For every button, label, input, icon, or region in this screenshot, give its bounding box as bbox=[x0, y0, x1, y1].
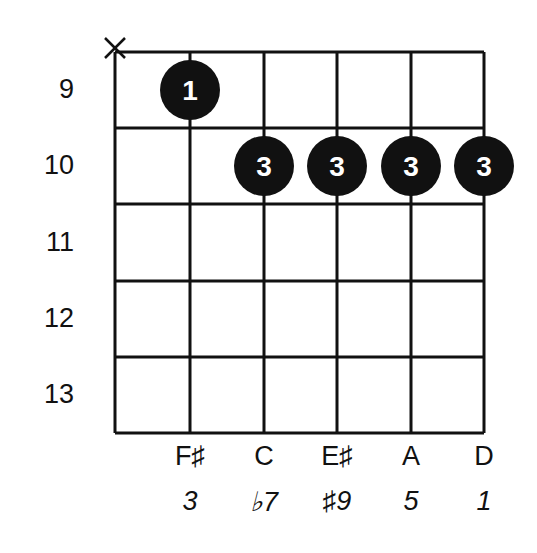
finger-number: 1 bbox=[182, 75, 198, 106]
interval-label: 3 bbox=[160, 486, 220, 517]
fret-number: 12 bbox=[18, 303, 74, 334]
finger-number: 3 bbox=[403, 151, 419, 182]
interval-label: ♯9 bbox=[307, 486, 367, 517]
interval-label: ♭7 bbox=[234, 486, 294, 518]
interval-label: 5 bbox=[381, 486, 441, 517]
fret-number: 11 bbox=[18, 227, 74, 258]
note-label: A bbox=[381, 441, 441, 472]
interval-label: 1 bbox=[454, 486, 514, 517]
note-label: D bbox=[454, 441, 514, 472]
finger-number: 3 bbox=[476, 151, 492, 182]
note-label: E♯ bbox=[307, 441, 367, 472]
finger-number: 3 bbox=[256, 151, 272, 182]
fret-number: 13 bbox=[18, 379, 74, 410]
fret-number: 9 bbox=[18, 74, 74, 105]
note-label: C bbox=[234, 441, 294, 472]
note-label: F♯ bbox=[160, 441, 220, 472]
fret-number: 10 bbox=[18, 150, 74, 181]
finger-number: 3 bbox=[329, 151, 345, 182]
